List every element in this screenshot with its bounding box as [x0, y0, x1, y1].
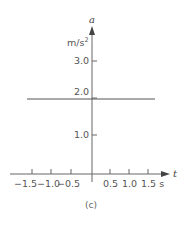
- y-unit-label: m/s2: [67, 36, 89, 48]
- x-tick-label: −0.5: [57, 178, 80, 189]
- acceleration-chart: a m/s2 3.0 2.0 1.0 −1.5 −1.0 −0.5 0.5 1.…: [0, 0, 184, 248]
- y-tick-label-3: 3.0: [74, 55, 89, 66]
- x-axis-arrow-icon: [161, 171, 170, 177]
- x-axis-name: t: [173, 168, 178, 179]
- y-tick-label-2: 2.0: [74, 86, 89, 97]
- x-tick-label: −1.5: [14, 178, 37, 189]
- x-tick-label: 1.0: [122, 178, 137, 189]
- y-axis-arrow-icon: [89, 26, 95, 35]
- y-axis-name: a: [89, 14, 95, 25]
- x-tick-label: 0.5: [103, 178, 118, 189]
- figure-caption: (c): [85, 200, 97, 210]
- y-tick-label-1: 1.0: [74, 129, 89, 140]
- x-tick-label: 1.5 s: [141, 178, 164, 189]
